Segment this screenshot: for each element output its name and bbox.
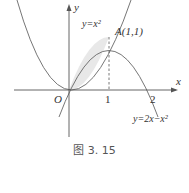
x-axis-arrow-icon [171,88,178,93]
x-tick-2: 2 [150,93,156,105]
y-axis-arrow-icon [67,4,72,11]
y-axis-label: y [73,1,79,13]
figure-diagram: y x O 1 2 y=x² A(1,1) y=2x−x² [0,0,189,193]
curve-label-2x-minus-x-squared: y=2x−x² [132,113,169,124]
x-axis-label: x [175,75,181,87]
curve-label-x-squared: y=x² [81,18,102,29]
figure-caption: 图 3. 15 [0,141,189,157]
x-tick-1: 1 [105,93,111,105]
curve-y-eq-x-squared [17,0,131,90]
point-a-label: A(1,1) [114,25,143,38]
origin-label: O [54,93,62,105]
curve-y-eq-2x-minus-x-squared [59,51,158,118]
